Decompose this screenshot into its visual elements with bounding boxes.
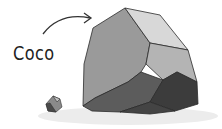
arrow-icon [43, 17, 90, 34]
rock-name-label: Coco [13, 42, 55, 64]
big-rock [83, 8, 198, 114]
pebble [46, 96, 62, 112]
illustration: Coco [0, 0, 222, 129]
rock-drawing [0, 0, 222, 129]
